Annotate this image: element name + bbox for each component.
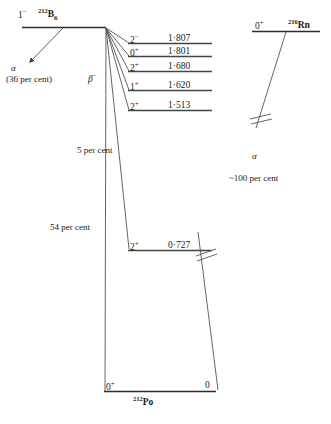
level-energy-3: 1·680 bbox=[168, 62, 190, 72]
daughter-alpha-percent-label: ~100 per cent bbox=[229, 174, 278, 183]
parent-nuclide-label: 212B6 bbox=[38, 8, 58, 22]
level-spin-5: 2+ bbox=[130, 101, 139, 113]
level-energy-1: 1·807 bbox=[168, 34, 190, 44]
parent-spin-label: 1− bbox=[18, 9, 27, 21]
daughter-alpha-particle-label: α bbox=[252, 152, 257, 161]
daughter-nuclide-label: 216Rn bbox=[288, 19, 310, 31]
level-spin-4: 1+ bbox=[130, 81, 139, 93]
daughter-break-mark-lower bbox=[251, 119, 272, 124]
level-energy-2: 1·801 bbox=[168, 47, 190, 57]
ground-state-spin-left: 0+ bbox=[106, 381, 115, 393]
right-alpha-line bbox=[198, 232, 218, 390]
level-energy-4: 1·620 bbox=[168, 81, 190, 91]
ground-state-spin-right: 0 bbox=[205, 381, 210, 391]
daughter-alpha-line bbox=[256, 32, 286, 128]
feed-percent-label-1: 5 per cent bbox=[77, 146, 112, 155]
diagram-lines bbox=[0, 0, 331, 424]
alpha-percent-label: (36 per cent) bbox=[6, 75, 52, 84]
feed-percent-label-2: 54 per cent bbox=[50, 223, 90, 232]
ground-state-nuclide-label: 212Po bbox=[133, 396, 153, 408]
level-spin-6: 2+ bbox=[130, 241, 139, 253]
decay-scheme-diagram: 1− 212B6 α (36 per cent) β− 2− 1·807 0+ … bbox=[0, 0, 331, 424]
alpha-particle-label: α bbox=[11, 64, 16, 73]
beta-transition-ground bbox=[105, 28, 106, 391]
beta-transition-6 bbox=[106, 28, 129, 249]
beta-label: β− bbox=[88, 73, 97, 85]
level-energy-5: 1·513 bbox=[168, 101, 190, 111]
level-spin-2: 0+ bbox=[130, 47, 139, 59]
level-energy-6: 0·727 bbox=[168, 241, 190, 251]
daughter-spin-label: 0+ bbox=[255, 20, 264, 32]
level-spin-3: 2+ bbox=[130, 62, 139, 74]
alpha-decay-arrow bbox=[31, 28, 63, 61]
level-spin-1: 2− bbox=[130, 34, 139, 46]
beta-transition-2 bbox=[106, 28, 129, 56]
